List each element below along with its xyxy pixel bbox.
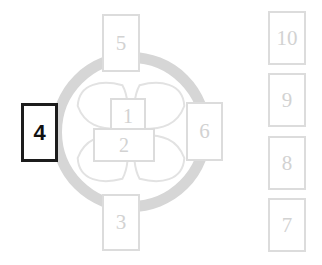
box-10[interactable]: 10 (268, 11, 306, 65)
box-5-label: 5 (116, 33, 127, 54)
box-2[interactable]: 2 (93, 128, 155, 162)
box-8[interactable]: 8 (268, 136, 306, 190)
box-8-label: 8 (282, 153, 293, 174)
box-2-label: 2 (119, 135, 129, 155)
box-6[interactable]: 6 (186, 102, 223, 161)
box-3[interactable]: 3 (102, 194, 140, 251)
box-4-label: 4 (33, 122, 45, 144)
box-9[interactable]: 9 (268, 73, 306, 127)
box-7-label: 7 (282, 215, 293, 236)
box-7[interactable]: 7 (268, 198, 306, 252)
box-5[interactable]: 5 (102, 14, 140, 72)
box-10-label: 10 (277, 28, 298, 49)
box-3-label: 3 (116, 212, 127, 233)
box-4[interactable]: 4 (21, 103, 58, 162)
box-9-label: 9 (282, 90, 293, 111)
box-6-label: 6 (199, 121, 210, 142)
diagram-canvas: 123456 10987 (0, 0, 322, 265)
box-1-label: 1 (123, 106, 133, 126)
